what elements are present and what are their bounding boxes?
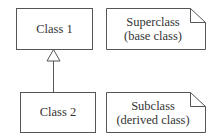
note2-line2: (derived class) xyxy=(106,113,200,127)
class1-label: Class 1 xyxy=(16,22,93,36)
note2-line1: Subclass xyxy=(106,99,200,113)
note2-text: Subclass (derived class) xyxy=(106,99,200,127)
class2-label: Class 2 xyxy=(20,105,96,119)
inheritance-arrow-icon xyxy=(47,50,60,62)
note1-text: Superclass (base class) xyxy=(106,15,200,43)
note1-line2: (base class) xyxy=(106,29,200,43)
note1-line1: Superclass xyxy=(106,15,200,29)
